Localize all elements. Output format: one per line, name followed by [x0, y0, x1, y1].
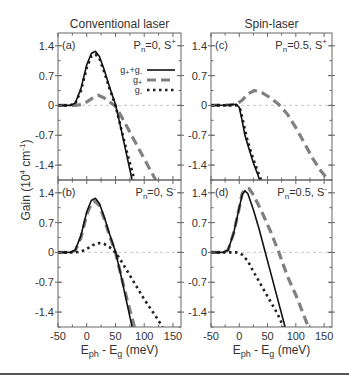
polarization-label: Pn=0.5, S+ — [275, 37, 327, 54]
y-tick-label: 0 — [201, 99, 207, 111]
series-g-minus — [58, 243, 163, 327]
panel-a: 1.40.70-0.7-1.4(a)Pn=0, S+g++g-g+g- — [35, 33, 184, 180]
y-tick-label: 0.7 — [192, 217, 207, 229]
x-axis-labels: Eph - Eg (meV)Eph - Eg (meV) — [81, 343, 311, 359]
polarization-label: Pn=0, S+ — [134, 37, 177, 54]
x-tick-label: 150 — [315, 330, 333, 342]
title-spin-laser: Spin-laser — [244, 17, 298, 31]
legend: g++g-g+g- — [120, 65, 175, 96]
y-tick-label: 0.7 — [39, 217, 54, 229]
y-tick-label: -1.4 — [35, 306, 54, 318]
y-tick-label: 1.4 — [39, 40, 54, 52]
y-tick-label: 0 — [48, 99, 54, 111]
bottom-rule — [0, 373, 349, 375]
x-axis-title: Eph - Eg (meV) — [233, 343, 311, 359]
y-tick-label: -1.4 — [188, 159, 207, 171]
x-tick-label: 100 — [287, 330, 305, 342]
series-g-minus — [211, 105, 261, 180]
polarization-label: Pn=0, S- — [136, 184, 177, 201]
x-tick-label: 150 — [164, 330, 182, 342]
x-tick-label: 0 — [84, 330, 90, 342]
panel-b: 1.40.70-0.7-1.4-50050100150(b)Pn=0, S- — [35, 180, 184, 342]
y-tick-label: -1.4 — [188, 306, 207, 318]
series-g-plus-plus-g-minus — [211, 104, 260, 180]
y-tick-label: 0.7 — [192, 70, 207, 82]
series-g-plus — [211, 189, 308, 328]
y-tick-label: -0.7 — [35, 129, 54, 141]
x-axis-title: Eph - Eg (meV) — [81, 343, 159, 359]
y-axis-title: Gain (104 cm-1) — [18, 140, 33, 221]
series-g-minus — [211, 252, 283, 327]
polarization-label: Pn=0.5, S- — [277, 184, 327, 201]
panel-tag: (a) — [62, 39, 75, 51]
series-g-plus-plus-g-minus — [211, 191, 285, 327]
y-axis-label: Gain (104 cm-1) — [18, 140, 33, 221]
panel-d: 1.40.70-0.7-1.4-50050100150(d)Pn=0.5, S- — [188, 180, 335, 342]
legend-label: g- — [135, 85, 143, 96]
y-tick-label: -0.7 — [35, 276, 54, 288]
y-tick-label: 1.4 — [192, 187, 207, 199]
y-tick-label: -0.7 — [188, 129, 207, 141]
x-tick-label: -50 — [50, 330, 66, 342]
y-tick-label: -1.4 — [35, 159, 54, 171]
legend-label: g++g- — [120, 65, 142, 76]
gain-figure: Conventional laser Spin-laser 1.40.70-0.… — [0, 0, 349, 377]
panel-tag: (d) — [215, 186, 228, 198]
y-tick-label: -0.7 — [188, 276, 207, 288]
x-tick-label: 100 — [135, 330, 153, 342]
panel-tag: (c) — [215, 39, 228, 51]
y-tick-label: 1.4 — [39, 187, 54, 199]
x-tick-label: -50 — [203, 330, 219, 342]
series-g-plus — [211, 91, 329, 181]
series-g-plus — [58, 201, 134, 327]
x-tick-label: 50 — [261, 330, 273, 342]
panels-group: 1.40.70-0.7-1.4(a)Pn=0, S+g++g-g+g-1.40.… — [35, 33, 335, 342]
y-tick-label: 1.4 — [192, 40, 207, 52]
y-tick-label: 0 — [48, 246, 54, 258]
x-tick-label: 50 — [109, 330, 121, 342]
x-tick-label: 0 — [236, 330, 242, 342]
panel-c: 1.40.70-0.7-1.4(c)Pn=0.5, S+ — [188, 33, 335, 180]
series-g-plus — [58, 95, 156, 180]
column-titles: Conventional laser Spin-laser — [70, 17, 299, 31]
y-tick-label: 0 — [201, 246, 207, 258]
y-tick-label: 0.7 — [39, 70, 54, 82]
title-conventional-laser: Conventional laser — [70, 17, 169, 31]
panel-tag: (b) — [62, 186, 75, 198]
